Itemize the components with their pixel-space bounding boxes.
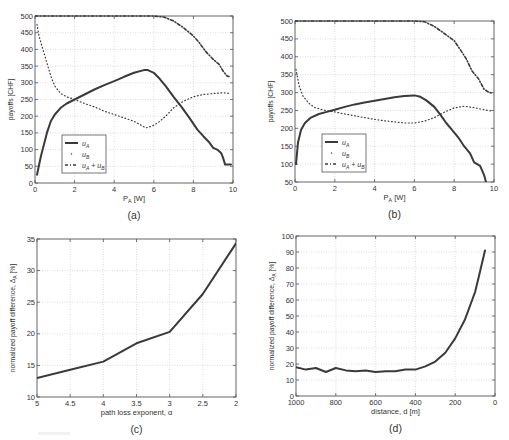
x-tick-label: 0 xyxy=(293,184,297,193)
figure-canvas: 0246810050100150200250300350400450500PA … xyxy=(0,0,509,440)
x-tick-label: 10 xyxy=(229,185,237,194)
axes-box-c xyxy=(37,239,236,397)
caption-d: (d) xyxy=(389,422,402,434)
x-tick-label: 5 xyxy=(35,399,39,408)
x-tick-label: 4.5 xyxy=(65,399,75,408)
y-tick-label: 50 xyxy=(286,312,294,321)
y-tick-label: 500 xyxy=(280,17,293,26)
y-tick-label: 40 xyxy=(286,328,294,337)
chart-a: 0246810050100150200250300350400450500PA … xyxy=(7,12,237,222)
x-tick-label: 600 xyxy=(369,398,382,407)
y-tick-label: 0 xyxy=(290,392,294,401)
legend-b: uAuBuA + uB xyxy=(322,134,366,172)
y-tick-label: 30 xyxy=(27,266,35,275)
y-tick-label: 350 xyxy=(20,62,33,71)
x-axis-label: distance, d [m] xyxy=(371,407,420,416)
x-tick-label: 8 xyxy=(191,185,195,194)
y-tick-label: 200 xyxy=(280,124,293,133)
x-tick-label: 800 xyxy=(330,398,343,407)
y-tick-label: 25 xyxy=(27,298,35,307)
y-tick-label: 60 xyxy=(286,296,294,305)
y-tick-label: 50 xyxy=(285,178,293,187)
chart-b: 024681050100150200250300350400450500PA [… xyxy=(267,17,498,221)
grid-c xyxy=(37,239,236,397)
x-tick-label: 10 xyxy=(490,184,498,193)
x-tick-label: 200 xyxy=(449,398,462,407)
x-tick-label: 4 xyxy=(101,399,105,408)
legend-a: uAuBuA + uB xyxy=(62,135,106,173)
series-line xyxy=(296,69,492,123)
y-tick-label: 0 xyxy=(29,179,33,188)
y-ticks-a: 050100150200250300350400450500 xyxy=(20,12,233,188)
y-ticks-c: 101520253035 xyxy=(27,235,236,402)
x-tick-label: 2.5 xyxy=(198,399,208,408)
chart-d: 100080060040020000102030405060708090100d… xyxy=(268,232,497,435)
x-tick-label: 0 xyxy=(33,185,37,194)
chart-c: 54.543.532.52101520253035path loss expon… xyxy=(9,235,238,436)
y-tick-label: 100 xyxy=(20,145,33,154)
y-ticks-b: 50100150200250300350400450500 xyxy=(280,17,494,187)
x-tick-label: 4 xyxy=(112,185,116,194)
x-tick-label: 6 xyxy=(412,184,416,193)
caption-b: (b) xyxy=(388,208,401,220)
y-tick-label: 10 xyxy=(286,376,294,385)
y-tick-label: 15 xyxy=(27,361,35,370)
y-tick-label: 450 xyxy=(280,34,293,43)
y-tick-label: 80 xyxy=(286,264,294,273)
series-line xyxy=(37,243,236,378)
y-tick-label: 20 xyxy=(286,360,294,369)
x-tick-label: 3 xyxy=(168,399,172,408)
y-tick-label: 500 xyxy=(20,12,33,21)
y-tick-label: 150 xyxy=(20,128,33,137)
y-tick-label: 100 xyxy=(281,232,294,241)
x-tick-label: 2 xyxy=(333,184,337,193)
y-axis-label: normalized payoff difference, ΔA [%] xyxy=(9,264,18,373)
caption-a: (a) xyxy=(128,209,141,221)
y-tick-label: 150 xyxy=(280,142,293,151)
y-tick-label: 50 xyxy=(25,162,33,171)
scan-artifact xyxy=(38,432,70,435)
x-axis-label: path loss exponent, α xyxy=(101,408,173,417)
y-tick-label: 200 xyxy=(20,112,33,121)
y-tick-label: 400 xyxy=(280,52,293,61)
x-tick-label: 2 xyxy=(234,399,238,408)
y-tick-label: 250 xyxy=(280,106,293,115)
y-tick-label: 400 xyxy=(20,45,33,54)
x-tick-label: 4 xyxy=(373,184,377,193)
x-axis-label: PA [W] xyxy=(384,193,406,203)
y-tick-label: 100 xyxy=(280,160,293,169)
y-tick-label: 10 xyxy=(27,393,35,402)
y-axis-label: payoffs [CHF] xyxy=(267,81,275,123)
x-ticks-d: 10008006004002000 xyxy=(288,236,497,407)
series-line xyxy=(37,24,231,128)
series-line xyxy=(296,250,485,372)
x-axis-label: PA [W] xyxy=(123,194,145,204)
x-tick-label: 0 xyxy=(493,398,497,407)
y-tick-label: 30 xyxy=(286,344,294,353)
y-tick-label: 20 xyxy=(27,329,35,338)
y-tick-label: 350 xyxy=(280,70,293,79)
x-tick-label: 2 xyxy=(73,185,77,194)
caption-c: (c) xyxy=(130,423,142,435)
y-tick-label: 250 xyxy=(20,95,33,104)
series-line xyxy=(35,16,231,77)
y-tick-label: 70 xyxy=(286,280,294,289)
x-tick-label: 400 xyxy=(409,398,422,407)
y-axis-label: payoffs [CHF] xyxy=(7,79,15,121)
y-tick-label: 35 xyxy=(27,235,35,244)
y-axis-label: normalized payoff difference, ΔA [%] xyxy=(268,262,277,371)
y-tick-label: 300 xyxy=(280,88,293,97)
y-tick-label: 300 xyxy=(20,78,33,87)
x-tick-label: 8 xyxy=(452,184,456,193)
series-line xyxy=(295,21,492,93)
y-tick-label: 90 xyxy=(286,248,294,257)
figure: 0246810050100150200250300350400450500PA … xyxy=(0,0,509,440)
y-tick-label: 450 xyxy=(20,28,33,37)
x-tick-label: 3.5 xyxy=(131,399,141,408)
x-tick-label: 6 xyxy=(152,185,156,194)
